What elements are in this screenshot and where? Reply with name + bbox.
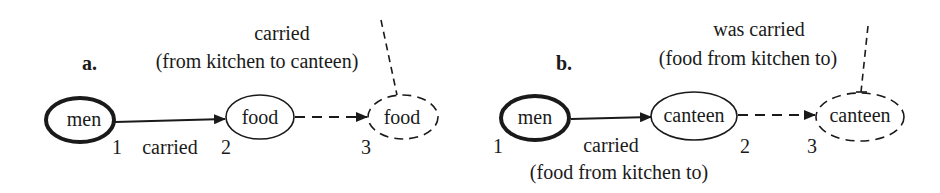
panel-b-annotation-verb: was carried [713, 18, 805, 40]
panel-a: a. carried (from kitchen to canteen) men… [46, 20, 438, 158]
panel-b-node-number-1: 1 [493, 135, 503, 157]
panel-b-annotation-leader-line [861, 26, 868, 92]
node-text: canteen [663, 104, 724, 126]
panel-a-node-men: men [46, 98, 114, 142]
node-text: canteen [829, 104, 890, 126]
node-text: men [518, 106, 552, 128]
node-text: food [384, 106, 421, 128]
panel-a-annotation-args: (from kitchen to canteen) [156, 50, 359, 73]
panel-b-node-number-3: 3 [807, 135, 817, 157]
panel-a-edge-label: carried [142, 136, 198, 158]
panel-a-node-food-dashed: food [368, 95, 438, 139]
panel-b-edge-label-verb: carried [583, 134, 639, 156]
panel-b-node-men: men [501, 96, 569, 140]
panel-b-node-canteen: canteen [651, 92, 737, 140]
panel-b-label: b. [556, 52, 572, 74]
panel-b-edge-solid-arrow [571, 117, 651, 119]
panel-a-node-number-3: 3 [361, 136, 371, 158]
node-text: men [67, 108, 101, 130]
diagram-canvas: a. carried (from kitchen to canteen) men… [0, 0, 940, 193]
panel-a-node-number-1: 1 [112, 136, 122, 158]
panel-b-annotation-args: (food from kitchen to) [659, 47, 837, 70]
panel-a-node-number-2: 2 [221, 136, 231, 158]
panel-b-edge-label-args: (food from kitchen to) [530, 161, 708, 184]
panel-a-annotation-verb: carried [254, 22, 310, 44]
panel-b-node-canteen-dashed: canteen [816, 93, 904, 141]
panel-b-node-number-2: 2 [740, 135, 750, 157]
panel-a-label: a. [82, 52, 97, 74]
panel-a-annotation-leader-line [381, 20, 397, 95]
panel-b: b. was carried (food from kitchen to) me… [493, 18, 904, 184]
panel-a-edge-solid-arrow [115, 119, 225, 122]
node-text: food [242, 106, 279, 128]
panel-a-node-food: food [226, 95, 294, 139]
